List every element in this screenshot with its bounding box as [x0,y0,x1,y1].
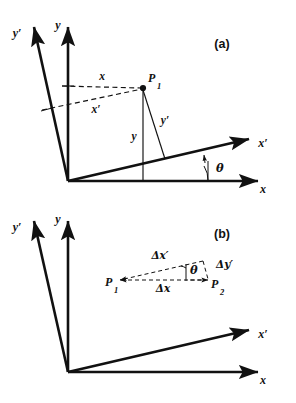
panel-a-x-projection-label: x [98,70,105,82]
panel-b-x-prime-axis-label: x′ [257,327,267,341]
panel-b-theta-arc [181,266,186,268]
panel-a-y-prime-axis [34,27,68,181]
panel-b-point-p2-subscript: 2 [219,287,225,297]
panel-a-caption: (a) [214,37,229,51]
panel-b-caption: (b) [214,227,230,241]
panel-b: (b) y y′ x x′ Δx Δx′ Δy′ θ P 1 P [11,212,268,387]
figure-root: (a) y y′ x x′ θ P 1 x x′ y [0,0,296,403]
panel-a-y-projection-label: y [129,130,137,143]
panel-b-delta-y-prime-label: Δy′ [215,258,233,270]
panel-b-point-p1-label: P [105,275,113,289]
panel-a-x-prime-axis-label: x′ [257,136,267,150]
panel-a-point-p1-subscript: 1 [157,81,161,91]
coordinate-rotation-figure: (a) y y′ x x′ θ P 1 x x′ y [0,0,296,403]
panel-b-theta-label: θ [190,263,198,277]
panel-a-theta-label: θ [216,161,224,175]
panel-b-point-p1-subscript: 1 [114,285,118,295]
panel-a-x-prime-projection-label: x′ [91,103,101,115]
panel-b-y-prime-axis [34,221,68,372]
panel-b-y-prime-axis-label: y′ [11,220,22,234]
panel-a-y-prime-projection-label: y′ [159,114,169,127]
panel-a-theta-arc [204,166,208,181]
panel-a-y-axis-label: y [53,18,61,32]
panel-b-x-prime-axis [68,330,249,372]
panel-b-point-p2-label: P [211,277,219,291]
panel-b-delta-x-prime-label: Δx′ [150,249,168,261]
panel-a: (a) y y′ x x′ θ P 1 x x′ y [11,18,268,196]
panel-b-delta-x-label: Δx [155,282,171,294]
panel-b-delta-y-prime-line [203,261,208,279]
panel-a-y-prime-axis-label: y′ [11,26,22,40]
panel-b-y-axis-label: y [53,212,61,226]
panel-a-point-p1-label: P [148,71,156,85]
panel-b-x-axis-label: x [259,373,266,387]
panel-a-theta-pointer [204,155,205,163]
panel-a-x-axis-label: x [259,182,266,196]
